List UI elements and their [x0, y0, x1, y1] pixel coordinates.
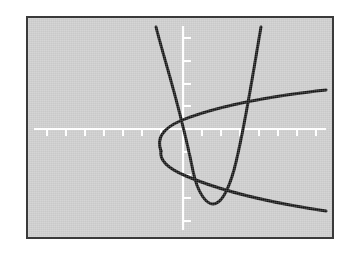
screenshot-root: [0, 0, 360, 253]
curve-rightward-parabola-lower: [161, 151, 326, 211]
plot-frame: [26, 16, 334, 239]
plot-canvas: [28, 18, 332, 237]
curve-rightward-parabola-upper: [160, 90, 326, 151]
curve-upward-parabola: [156, 27, 261, 204]
